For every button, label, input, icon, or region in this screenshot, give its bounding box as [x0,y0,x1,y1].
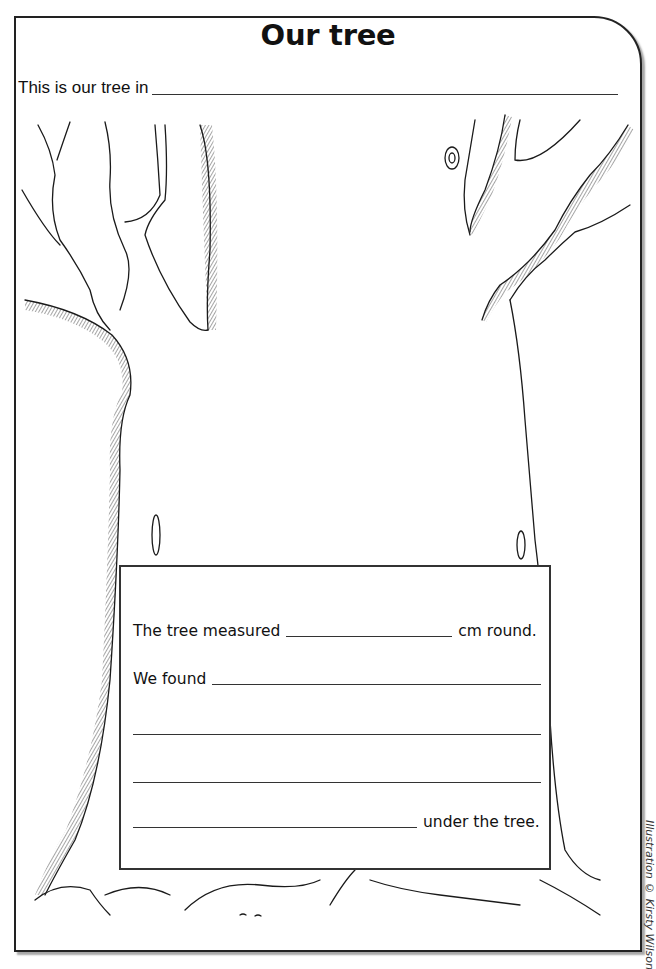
under-tree-suffix: under the tree. [423,813,540,831]
measurement-row: The tree measured cm round. [133,622,541,640]
under-tree-row: under the tree. [133,813,541,831]
intro-label: This is our tree in [18,78,148,98]
found-prefix: We found [133,670,206,688]
found-blank-field-4[interactable] [133,815,417,828]
intro-row: This is our tree in [18,78,618,98]
page-title: Our tree [0,18,656,52]
measurement-blank-field[interactable] [286,624,452,637]
illustration-credit: Illustration © Kirsty Wilson [640,820,656,960]
found-blank-field-3[interactable] [133,770,541,783]
found-row-3 [133,770,541,786]
measurement-suffix: cm round. [458,622,536,640]
found-row: We found [133,670,541,688]
found-blank-field-2[interactable] [133,722,541,735]
found-row-2 [133,722,541,738]
location-blank-field[interactable] [152,80,618,95]
found-blank-field-1[interactable] [212,672,541,685]
info-box: The tree measured cm round. We found und… [119,565,551,870]
measurement-prefix: The tree measured [133,622,280,640]
